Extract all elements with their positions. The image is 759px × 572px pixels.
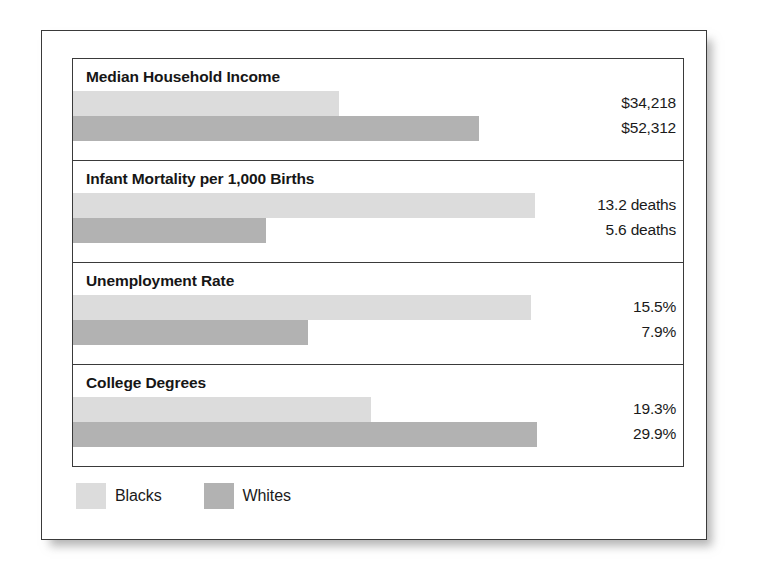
legend-entry-blacks: Blacks <box>76 483 162 509</box>
bar-row: 5.6 deaths <box>73 218 683 243</box>
section-title: Unemployment Rate <box>73 263 683 290</box>
bar-whites <box>73 116 479 141</box>
bar-value-blacks: 19.3% <box>633 400 676 418</box>
legend-swatch-blacks <box>76 483 106 509</box>
legend-label-whites: Whites <box>243 487 291 505</box>
bar-blacks <box>73 397 371 422</box>
bar-row: 19.3% <box>73 397 683 422</box>
chart-panel: Median Household Income $34,218 $52,312 … <box>72 58 684 467</box>
metric-section-infant-mortality: Infant Mortality per 1,000 Births 13.2 d… <box>73 161 683 263</box>
bars-area: $34,218 $52,312 <box>73 91 683 160</box>
bar-row: $34,218 <box>73 91 683 116</box>
bar-value-blacks: 15.5% <box>633 298 676 316</box>
bars-area: 15.5% 7.9% <box>73 295 683 364</box>
metric-section-unemployment-rate: Unemployment Rate 15.5% 7.9% <box>73 263 683 365</box>
chart-legend: Blacks Whites <box>76 483 291 509</box>
bar-value-whites: 7.9% <box>641 323 676 341</box>
bar-value-whites: 5.6 deaths <box>606 221 676 239</box>
bar-value-whites: $52,312 <box>621 119 676 137</box>
bar-row: 15.5% <box>73 295 683 320</box>
bar-value-blacks: $34,218 <box>621 94 676 112</box>
bar-blacks <box>73 295 531 320</box>
figure-frame: Median Household Income $34,218 $52,312 … <box>41 30 707 540</box>
section-title: Median Household Income <box>73 59 683 86</box>
legend-swatch-whites <box>204 483 234 509</box>
bar-whites <box>73 218 266 243</box>
section-title: Infant Mortality per 1,000 Births <box>73 161 683 188</box>
bar-value-whites: 29.9% <box>633 425 676 443</box>
section-title: College Degrees <box>73 365 683 392</box>
bars-area: 13.2 deaths 5.6 deaths <box>73 193 683 262</box>
bar-blacks <box>73 91 339 116</box>
legend-label-blacks: Blacks <box>115 487 162 505</box>
metric-section-median-household-income: Median Household Income $34,218 $52,312 <box>73 59 683 161</box>
legend-entry-whites: Whites <box>204 483 291 509</box>
bar-row: 13.2 deaths <box>73 193 683 218</box>
bars-area: 19.3% 29.9% <box>73 397 683 466</box>
bar-row: $52,312 <box>73 116 683 141</box>
bar-whites <box>73 320 308 345</box>
metric-section-college-degrees: College Degrees 19.3% 29.9% <box>73 365 683 466</box>
bar-row: 7.9% <box>73 320 683 345</box>
bar-whites <box>73 422 537 447</box>
bar-value-blacks: 13.2 deaths <box>597 196 676 214</box>
bar-row: 29.9% <box>73 422 683 447</box>
bar-blacks <box>73 193 535 218</box>
